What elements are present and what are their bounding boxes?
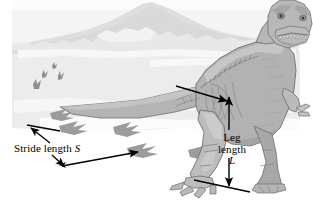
stride-arrow-left <box>31 128 50 143</box>
stride-length-symbol: S <box>75 142 81 154</box>
stride-length-text: Stride length <box>14 142 72 154</box>
dinosaur-foot <box>170 176 216 198</box>
leg-length-text-line1: Leg <box>212 132 252 144</box>
footprint <box>127 143 158 158</box>
leg-length-label: Leg length L <box>212 132 252 167</box>
dinosaur-stride-figure: Stride length S Leg length L <box>0 0 313 203</box>
scene-illustration <box>0 0 313 203</box>
stride-length-label: Stride length S <box>14 143 80 155</box>
leg-length-symbol: L <box>212 155 252 167</box>
dinosaur-head <box>268 0 312 48</box>
